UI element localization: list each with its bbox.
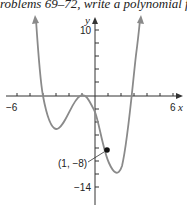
annotated-point-marker — [104, 147, 110, 153]
polynomial-curve — [32, 15, 144, 173]
polynomial-graph: −6 6 x y 10 −14 (1, −8) — [0, 0, 187, 210]
y-max-label: 10 — [80, 25, 92, 36]
x-axis-label: x — [177, 101, 183, 113]
x-max-label: 6 — [170, 102, 176, 113]
x-min-label: −6 — [6, 102, 18, 113]
y-min-label: −14 — [74, 182, 91, 193]
point-label: (1, −8) — [58, 158, 87, 169]
